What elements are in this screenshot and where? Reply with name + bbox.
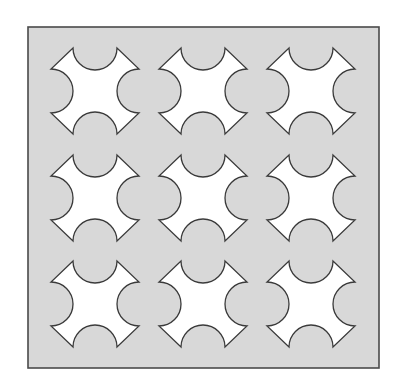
tile-grid bbox=[51, 48, 355, 347]
tiling-figure bbox=[0, 0, 403, 383]
